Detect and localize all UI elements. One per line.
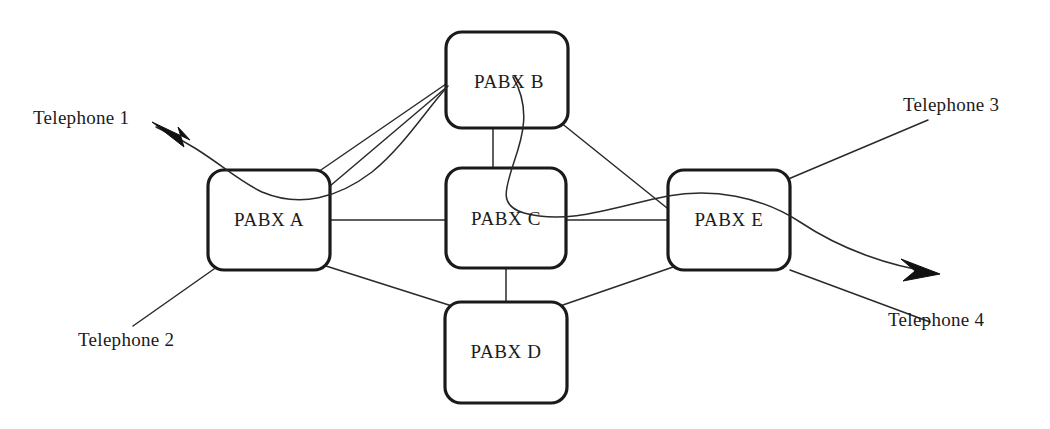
link-a-d xyxy=(326,266,452,306)
endpoint-label-telephone-4: Telephone 4 xyxy=(888,310,984,329)
link-telephone2-a xyxy=(133,269,214,326)
arrowhead-telephone4 xyxy=(901,259,940,281)
diagram-canvas: PABX A PABX B PABX C PABX D PABX E Telep… xyxy=(0,0,1050,429)
endpoint-label-telephone-2: Telephone 2 xyxy=(78,330,174,349)
endpoint-label-telephone-1: Telephone 1 xyxy=(33,108,129,127)
node-label-pabx-c: PABX C xyxy=(471,208,541,229)
network-diagram: PABX A PABX B PABX C PABX D PABX E xyxy=(0,0,1050,429)
link-a-b-upper xyxy=(318,84,446,172)
arrowhead-telephone1 xyxy=(152,122,190,147)
link-d-e xyxy=(560,266,676,306)
node-label-pabx-e: PABX E xyxy=(695,209,764,230)
node-label-pabx-d: PABX D xyxy=(470,341,541,362)
link-a-b xyxy=(330,86,448,186)
endpoint-label-telephone-3: Telephone 3 xyxy=(903,95,999,114)
node-label-pabx-a: PABX A xyxy=(234,209,304,230)
node-label-pabx-b: PABX B xyxy=(474,71,544,92)
link-telephone3-e xyxy=(786,120,928,180)
